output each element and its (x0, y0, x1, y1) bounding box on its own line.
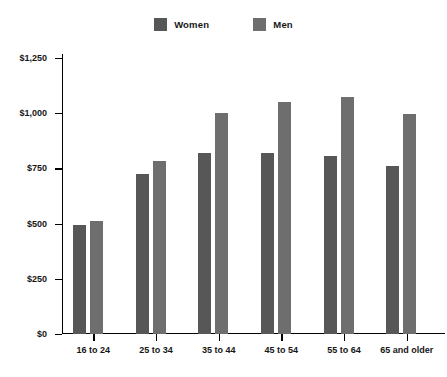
x-axis-tick (219, 334, 220, 341)
bar-men-55-to-64 (341, 97, 354, 334)
y-axis-tick-label: $750 (27, 163, 47, 173)
x-axis-tick-label: 65 and older (380, 345, 433, 355)
grouped-bar-chart: Women Men $0$250$500$750$1,000$1,250 16 … (0, 0, 447, 377)
x-axis-tick-label: 16 to 24 (77, 345, 111, 355)
bar-women-45-to-54 (261, 153, 274, 334)
legend-label-women: Women (174, 20, 209, 30)
x-axis-tick-label: 55 to 64 (327, 345, 361, 355)
x-axis-tick-label: 35 to 44 (202, 345, 236, 355)
x-axis-tick (93, 334, 94, 341)
x-axis-tick (281, 334, 282, 341)
bar-women-35-to-44 (198, 153, 211, 334)
bar-men-45-to-54 (278, 102, 291, 334)
y-axis-tick (55, 334, 62, 335)
y-axis-tick-label: $1,000 (19, 108, 47, 118)
x-axis: 16 to 2425 to 3435 to 4445 to 5455 to 64… (62, 334, 438, 374)
y-axis-tick (55, 224, 62, 225)
legend-item-women: Women (154, 18, 209, 31)
legend-item-men: Men (253, 18, 293, 31)
bar-men-16-to-24 (90, 221, 103, 334)
bar-group (375, 58, 438, 334)
bar-women-16-to-24 (73, 225, 86, 334)
x-axis-tick (407, 334, 408, 341)
y-axis-tick (55, 279, 62, 280)
y-axis-tick (55, 58, 62, 59)
y-axis-tick-label: $0 (37, 329, 47, 339)
plot-area: $0$250$500$750$1,000$1,250 (62, 58, 438, 334)
bar-women-65-and-older (386, 166, 399, 334)
bar-women-55-to-64 (324, 156, 337, 334)
x-axis-tick-label: 45 to 54 (265, 345, 299, 355)
bar-group (250, 58, 313, 334)
legend-swatch-women (154, 18, 167, 31)
bar-men-65-and-older (403, 114, 416, 334)
y-axis-tick (55, 113, 62, 114)
legend-label-men: Men (273, 20, 293, 30)
bars-layer (62, 58, 438, 334)
y-axis-tick-label: $250 (27, 274, 47, 284)
bar-men-35-to-44 (215, 113, 228, 334)
y-axis-tick-label: $500 (27, 219, 47, 229)
bar-group (187, 58, 250, 334)
chart-legend: Women Men (0, 18, 447, 31)
x-axis-tick-label: 25 to 34 (139, 345, 173, 355)
x-axis-tick (344, 334, 345, 341)
bar-women-25-to-34 (136, 174, 149, 334)
bar-group (125, 58, 188, 334)
bar-men-25-to-34 (153, 161, 166, 334)
legend-swatch-men (253, 18, 266, 31)
x-axis-tick (156, 334, 157, 341)
bar-group (313, 58, 376, 334)
bar-group (62, 58, 125, 334)
y-axis-tick-label: $1,250 (19, 53, 47, 63)
y-axis-tick (55, 168, 62, 169)
